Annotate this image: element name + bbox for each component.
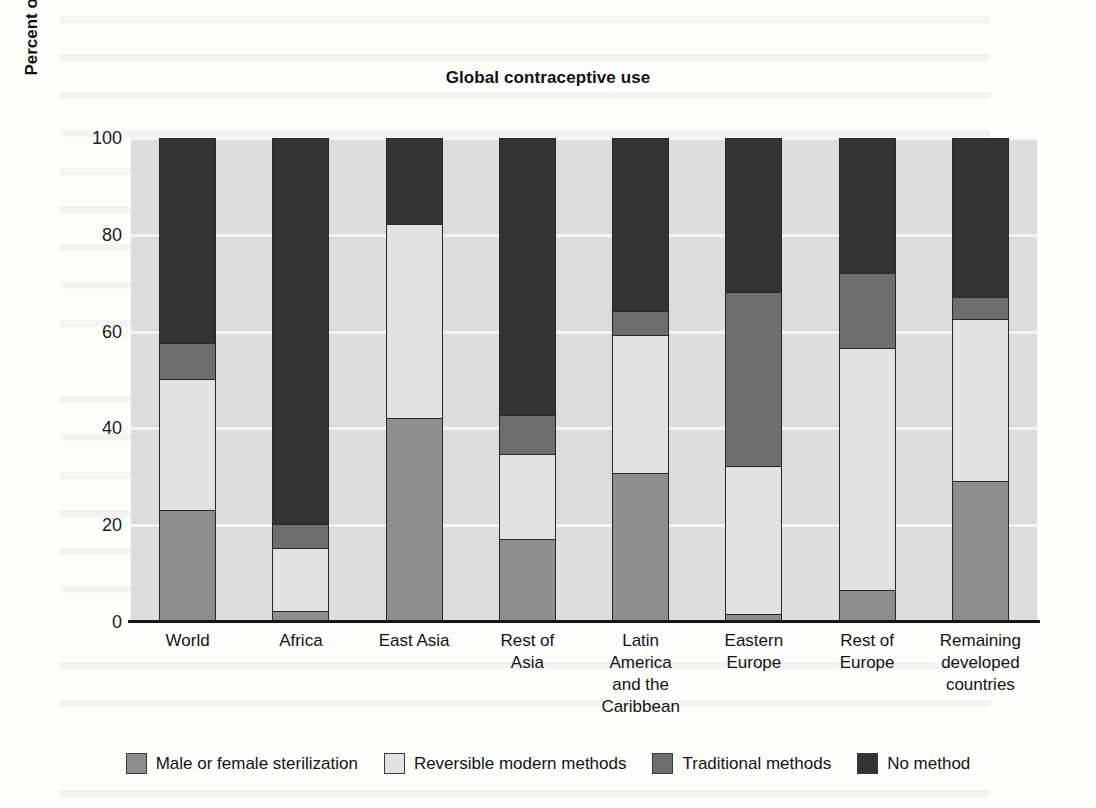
y-axis-tick-labels: 020406080100: [70, 138, 122, 622]
bar-world: [159, 138, 216, 622]
bar-segment: [500, 415, 555, 454]
legend-item[interactable]: Male or female sterilization: [126, 753, 358, 774]
x-axis-label-line: Eastern: [697, 630, 810, 652]
x-axis-line: [128, 620, 1040, 623]
legend-label: Male or female sterilization: [156, 754, 358, 774]
bar-remaining-developed-countries: [952, 138, 1009, 622]
x-axis-label-line: Africa: [244, 630, 357, 652]
x-axis-label: EasternEurope: [697, 630, 810, 674]
y-axis-tick-label: 60: [76, 321, 122, 342]
legend-swatch-icon: [384, 753, 405, 774]
x-axis-label: World: [131, 630, 244, 652]
bar-segment: [726, 138, 781, 292]
bar-segment: [387, 224, 442, 418]
x-axis-label-line: developed: [924, 652, 1037, 674]
x-axis-label: LatinAmericaand theCaribbean: [584, 630, 697, 718]
bar-segment: [840, 348, 895, 590]
y-axis-tick-label: 80: [76, 224, 122, 245]
chart-page: Global contraceptive use Percent of marr…: [0, 0, 1096, 808]
x-axis-label-line: and the: [584, 674, 697, 696]
x-axis-label-line: World: [131, 630, 244, 652]
x-axis-label-line: Rest of: [471, 630, 584, 652]
bar-segment: [953, 319, 1008, 481]
legend-label: No method: [887, 754, 970, 774]
x-axis-label: Remainingdevelopedcountries: [924, 630, 1037, 696]
bar-segment: [500, 138, 555, 415]
bar-east-asia: [386, 138, 443, 622]
bar-segment: [613, 311, 668, 335]
page-artifact: [60, 790, 990, 797]
bar-segment: [160, 379, 215, 510]
bar-latin-america-and-the-caribbean: [612, 138, 669, 622]
x-axis-label-line: Europe: [697, 652, 810, 674]
gridline: [131, 331, 1037, 334]
bar-rest-of-europe: [839, 138, 896, 622]
bar-segment: [613, 335, 668, 473]
bar-segment: [273, 138, 328, 524]
x-axis-label-line: Asia: [471, 652, 584, 674]
x-axis-label: Rest ofAsia: [471, 630, 584, 674]
bar-rest-of-asia: [499, 138, 556, 622]
legend-swatch-icon: [857, 753, 878, 774]
bar-eastern-europe: [725, 138, 782, 622]
legend-swatch-icon: [126, 753, 147, 774]
bar-segment: [387, 138, 442, 224]
bar-segment: [160, 510, 215, 621]
legend-item[interactable]: Traditional methods: [652, 753, 831, 774]
bar-segment: [953, 297, 1008, 319]
legend-item[interactable]: No method: [857, 753, 970, 774]
bar-segment: [613, 473, 668, 621]
plot-area: [131, 138, 1037, 622]
bar-segment: [840, 138, 895, 273]
x-axis-tick-labels: WorldAfricaEast AsiaRest ofAsiaLatinAmer…: [131, 630, 1037, 740]
x-axis-label-line: Remaining: [924, 630, 1037, 652]
x-axis-label-line: America: [584, 652, 697, 674]
gridline: [131, 137, 1037, 140]
page-artifact: [60, 130, 990, 137]
gridline: [131, 234, 1037, 237]
bar-segment: [273, 524, 328, 548]
x-axis-label: East Asia: [358, 630, 471, 652]
bar-segment: [160, 138, 215, 343]
x-axis-label-line: Latin: [584, 630, 697, 652]
bar-segment: [840, 590, 895, 621]
page-artifact: [60, 92, 990, 99]
chart-legend: Male or female sterilizationReversible m…: [0, 753, 1096, 774]
y-axis-tick-label: 0: [76, 612, 122, 633]
x-axis-label: Africa: [244, 630, 357, 652]
y-axis-title: Percent of married women ages 15-49: [18, 0, 46, 158]
bar-segment: [500, 539, 555, 621]
bar-segment: [273, 548, 328, 611]
bar-segment: [500, 454, 555, 539]
x-axis-label: Rest ofEurope: [811, 630, 924, 674]
y-axis-tick-label: 40: [76, 418, 122, 439]
x-axis-label-line: East Asia: [358, 630, 471, 652]
bar-segment: [160, 343, 215, 379]
x-axis-label-line: countries: [924, 674, 1037, 696]
x-axis-label-line: Caribbean: [584, 696, 697, 718]
y-axis-tick-label: 100: [76, 128, 122, 149]
bar-segment: [953, 138, 1008, 297]
legend-label: Traditional methods: [682, 754, 831, 774]
gridline: [131, 427, 1037, 430]
chart-title: Global contraceptive use: [0, 68, 1096, 88]
bar-segment: [953, 481, 1008, 621]
bar-africa: [272, 138, 329, 622]
bar-segment: [613, 138, 668, 311]
bar-segment: [387, 418, 442, 621]
x-axis-label-line: Rest of: [811, 630, 924, 652]
legend-label: Reversible modern methods: [414, 754, 627, 774]
legend-item[interactable]: Reversible modern methods: [384, 753, 627, 774]
page-artifact: [60, 16, 990, 23]
y-axis-tick-label: 20: [76, 515, 122, 536]
bar-segment: [726, 466, 781, 614]
legend-swatch-icon: [652, 753, 673, 774]
gridline: [131, 524, 1037, 527]
page-artifact: [60, 54, 990, 61]
bar-segment: [840, 273, 895, 348]
bar-segment: [726, 292, 781, 466]
x-axis-label-line: Europe: [811, 652, 924, 674]
